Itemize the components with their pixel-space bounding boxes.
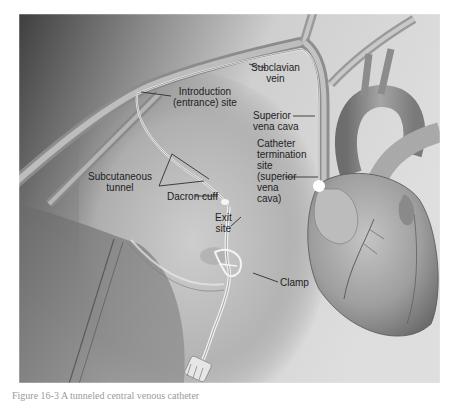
label-exit-site: Exit site	[215, 212, 232, 234]
label-line: vena cava	[253, 121, 299, 132]
label-line: Subcutaneous	[88, 171, 152, 182]
catheter-illustration: Subclavian vein Introduction (entrance) …	[19, 14, 440, 383]
label-line: (entrance) site	[173, 97, 237, 108]
anatomy-drawing	[19, 14, 440, 383]
label-introduction-site: Introduction (entrance) site	[173, 86, 237, 108]
label-line: cava)	[257, 193, 306, 204]
label-dacron-cuff: Dacron cuff	[167, 191, 218, 202]
label-line: vein	[251, 73, 300, 84]
label-catheter-termination-site: Catheter termination site (superior vena…	[257, 138, 306, 204]
label-line: site	[215, 223, 232, 234]
label-line: tunnel	[88, 182, 152, 193]
label-subcutaneous-tunnel: Subcutaneous tunnel	[88, 171, 152, 193]
figure-caption: Figure 16-3 A tunneled central venous ca…	[12, 390, 199, 401]
label-line: (superior	[257, 171, 306, 182]
label-line: Exit	[215, 212, 232, 223]
label-line: Introduction	[173, 86, 237, 97]
label-superior-vena-cava: Superior vena cava	[253, 110, 299, 132]
label-line: vena	[257, 182, 306, 193]
label-line: Superior	[253, 110, 299, 121]
label-line: termination	[257, 149, 306, 160]
label-clamp: Clamp	[280, 277, 309, 288]
label-line: Subclavian	[251, 62, 300, 73]
label-line: Catheter	[257, 138, 306, 149]
label-line: site	[257, 160, 306, 171]
label-subclavian-vein: Subclavian vein	[251, 62, 300, 84]
